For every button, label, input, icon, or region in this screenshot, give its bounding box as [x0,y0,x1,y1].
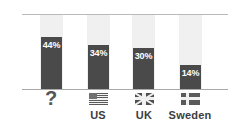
flag-sweden-icon [160,90,220,107]
bar-2[interactable]: 34% [88,45,109,89]
bar-value-label-4: 14% [180,68,201,78]
flag-sweden-graphic [181,93,200,105]
bar-4[interactable]: 14% [180,65,201,89]
bar-column-3: 30% [132,15,155,89]
flag-us-graphic [89,93,108,105]
bar-value-label-1: 44% [41,40,62,50]
bar-3[interactable]: 30% [133,48,154,89]
bar-value-label-2: 34% [88,48,109,58]
bar-1[interactable]: 44% [41,37,62,89]
category-label-4: Sweden [160,109,220,122]
chart-category-axis: ? US UK [0,90,245,130]
bar-chart: 44% 34% 30% 14% [0,0,245,130]
category-4: Sweden [160,90,220,122]
bar-column-1: 44% [40,15,63,89]
bar-value-label-3: 30% [133,51,154,61]
bar-column-4: 14% [179,15,202,89]
bar-column-2: 34% [87,15,110,89]
chart-plot-area: 44% 34% 30% 14% [0,0,245,90]
flag-uk-graphic [135,93,154,105]
